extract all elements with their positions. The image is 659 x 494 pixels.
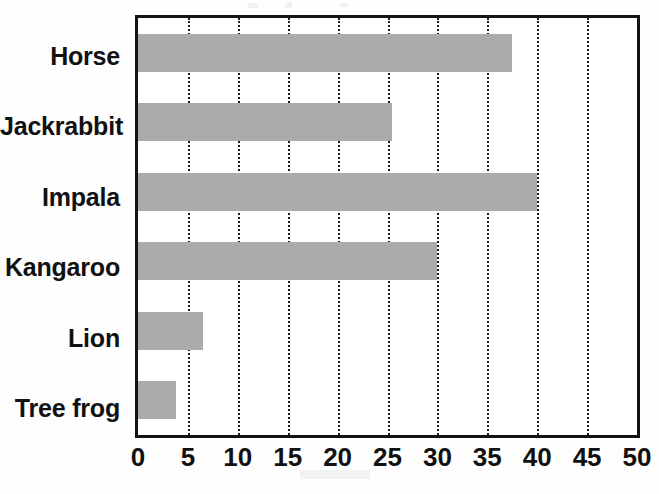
x-tick-label-10: 10: [223, 444, 252, 470]
x-tick-label-35: 35: [473, 444, 502, 470]
plot-inner: [138, 18, 637, 435]
x-tick-label-15: 15: [273, 444, 302, 470]
bar-band: [138, 157, 637, 227]
y-tick-label-lion: Lion: [0, 326, 120, 351]
x-tick-label-50: 50: [623, 444, 652, 470]
bar-band: [138, 18, 637, 88]
x-tick-label-45: 45: [573, 444, 602, 470]
bar-band: [138, 366, 637, 436]
x-tick-label-40: 40: [523, 444, 552, 470]
x-tick-label-0: 0: [131, 444, 145, 470]
y-tick-label-tree-frog: Tree frog: [0, 396, 120, 421]
x-tick-label-25: 25: [373, 444, 402, 470]
bar-impala[interactable]: [138, 173, 537, 211]
y-tick-label-kangaroo: Kangaroo: [0, 255, 120, 280]
bar-lion[interactable]: [138, 312, 203, 350]
bar-band: [138, 88, 637, 158]
y-tick-label-horse: Horse: [0, 44, 120, 69]
bar-kangaroo[interactable]: [138, 242, 437, 280]
bar-chart: Horse Jackrabbit Impala Kangaroo Lion Tr…: [0, 0, 659, 494]
x-tick-label-5: 5: [181, 444, 195, 470]
bar-band: [138, 296, 637, 366]
bar-tree-frog[interactable]: [138, 381, 176, 419]
x-tick-label-30: 30: [423, 444, 452, 470]
scan-artifact: [248, 3, 258, 8]
x-tick-label-20: 20: [323, 444, 352, 470]
bar-horse[interactable]: [138, 34, 512, 72]
y-axis-labels: Horse Jackrabbit Impala Kangaroo Lion Tr…: [0, 0, 128, 494]
scan-artifact: [340, 3, 348, 7]
y-tick-label-jackrabbit: Jackrabbit: [0, 114, 120, 139]
bar-jackrabbit[interactable]: [138, 103, 392, 141]
plot-area: [135, 15, 640, 438]
y-tick-label-impala: Impala: [0, 185, 120, 210]
scan-artifact: [286, 2, 292, 8]
bar-band: [138, 227, 637, 297]
